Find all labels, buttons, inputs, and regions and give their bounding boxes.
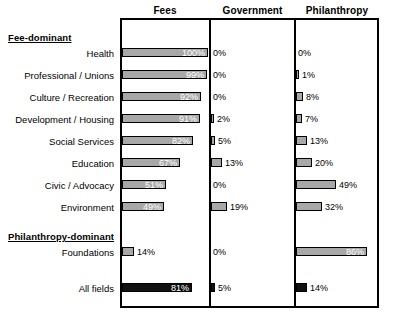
row-label: Social Services xyxy=(0,136,114,147)
bar-cell-philanthropy: 0% xyxy=(296,48,378,59)
bar-value-philanthropy: 0% xyxy=(298,48,311,59)
column-header-fees: Fees xyxy=(120,4,210,17)
bar-philanthropy xyxy=(296,202,322,211)
revenue-source-chart: Fees Government Philanthropy Fee-dominan… xyxy=(0,0,393,325)
bar-value-philanthropy: 14% xyxy=(310,283,328,294)
bar-value-philanthropy: 8% xyxy=(306,92,319,103)
bar-cell-fees: 100% xyxy=(122,48,208,59)
bar-cell-government: 19% xyxy=(211,202,293,213)
bar-cell-philanthropy: 86% xyxy=(296,247,378,258)
bar-government xyxy=(211,114,214,123)
bar-value-government: 0% xyxy=(213,92,226,103)
bar-cell-government: 5% xyxy=(211,283,293,294)
bar-cell-philanthropy: 1% xyxy=(296,70,378,81)
bar-value-government: 0% xyxy=(213,48,226,59)
bar-value-fees: 100% xyxy=(122,48,205,59)
bar-cell-philanthropy: 20% xyxy=(296,158,378,169)
bar-cell-fees: 51% xyxy=(122,180,208,191)
bar-cell-government: 2% xyxy=(211,114,293,125)
row-label: Foundations xyxy=(0,247,114,258)
group-heading: Fee-dominant xyxy=(8,32,71,43)
bar-value-government: 13% xyxy=(225,158,243,169)
bar-value-fees: 82% xyxy=(122,136,190,147)
column-header-philanthropy: Philanthropy xyxy=(295,4,379,17)
bar-value-government: 0% xyxy=(213,70,226,81)
bar-cell-fees: 92% xyxy=(122,92,208,103)
bar-cell-fees: 49% xyxy=(122,202,208,213)
bar-government xyxy=(211,136,215,145)
bar-cell-fees: 99% xyxy=(122,70,208,81)
bar-cell-government: 0% xyxy=(211,247,293,258)
bar-cell-fees: 91% xyxy=(122,114,208,125)
bar-cell-fees: 14% xyxy=(122,247,208,258)
bar-philanthropy xyxy=(296,180,336,189)
bar-cell-philanthropy: 32% xyxy=(296,202,378,213)
bar-cell-fees: 81% xyxy=(122,283,208,294)
bar-cell-government: 0% xyxy=(211,92,293,103)
row-label: Education xyxy=(0,158,114,169)
bar-philanthropy xyxy=(296,114,302,123)
bar-value-fees: 67% xyxy=(122,158,177,169)
bar-cell-philanthropy: 14% xyxy=(296,283,378,294)
bar-government xyxy=(211,158,222,167)
group-heading: Philanthropy-dominant xyxy=(8,231,114,242)
bar-value-fees: 14% xyxy=(137,247,155,258)
row-label: Civic / Advocacy xyxy=(0,180,114,191)
bar-value-fees: 91% xyxy=(122,114,197,125)
bar-value-fees: 51% xyxy=(122,180,163,191)
bar-cell-philanthropy: 7% xyxy=(296,114,378,125)
row-label: Environment xyxy=(0,202,114,213)
row-label: Culture / Recreation xyxy=(0,92,114,103)
row-label: Professional / Unions xyxy=(0,70,114,81)
bar-philanthropy xyxy=(296,92,303,101)
column-header-government: Government xyxy=(210,4,295,17)
bar-cell-fees: 82% xyxy=(122,136,208,147)
bar-cell-philanthropy: 13% xyxy=(296,136,378,147)
bar-cell-fees: 67% xyxy=(122,158,208,169)
bar-government xyxy=(211,202,227,211)
row-label: All fields xyxy=(0,283,114,294)
bar-value-fees: 99% xyxy=(122,70,204,81)
bar-philanthropy xyxy=(296,70,299,79)
bar-value-government: 19% xyxy=(230,202,248,213)
bar-value-government: 5% xyxy=(218,136,231,147)
bar-fees xyxy=(122,247,134,256)
bar-value-philanthropy: 13% xyxy=(310,136,328,147)
bar-cell-philanthropy: 8% xyxy=(296,92,378,103)
bar-value-philanthropy: 7% xyxy=(305,114,318,125)
bar-value-fees: 81% xyxy=(122,283,189,294)
bar-cell-government: 13% xyxy=(211,158,293,169)
bar-value-philanthropy: 49% xyxy=(339,180,357,191)
bar-value-philanthropy: 1% xyxy=(302,70,315,81)
bar-philanthropy xyxy=(296,136,307,145)
bar-government xyxy=(211,283,215,292)
bar-philanthropy xyxy=(296,283,307,292)
bar-value-government: 0% xyxy=(213,180,226,191)
bar-cell-philanthropy: 49% xyxy=(296,180,378,191)
bar-value-fees: 92% xyxy=(122,92,198,103)
bar-cell-government: 0% xyxy=(211,180,293,191)
bar-value-government: 5% xyxy=(218,283,231,294)
bar-value-fees: 49% xyxy=(122,202,161,213)
bar-cell-government: 0% xyxy=(211,70,293,81)
row-label: Development / Housing xyxy=(0,114,114,125)
bar-philanthropy xyxy=(296,158,312,167)
bar-value-philanthropy: 20% xyxy=(315,158,333,169)
bar-value-government: 0% xyxy=(213,247,226,258)
bar-value-government: 2% xyxy=(217,114,230,125)
bar-value-philanthropy: 32% xyxy=(325,202,343,213)
bar-cell-government: 5% xyxy=(211,136,293,147)
bar-value-philanthropy: 86% xyxy=(296,247,364,258)
row-label: Health xyxy=(0,48,114,59)
bar-cell-government: 0% xyxy=(211,48,293,59)
